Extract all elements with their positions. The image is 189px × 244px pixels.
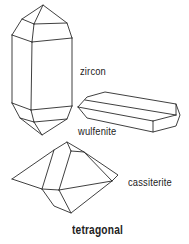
zircon-label: zircon [80,65,106,77]
zircon-crystal [12,5,72,135]
diagram-title: tetragonal [72,223,123,237]
cassiterite-crystal [12,142,118,213]
wulfenite-label: wulfenite [78,125,116,137]
crystal-diagram [0,0,189,244]
cassiterite-label: cassiterite [128,176,172,188]
